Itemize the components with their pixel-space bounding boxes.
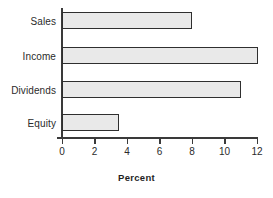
x-axis-title: Percent <box>0 172 273 183</box>
x-tick-label-0: 0 <box>59 146 65 157</box>
category-label-dividends: Dividends <box>11 84 56 95</box>
category-label-equity: Equity <box>28 117 56 128</box>
x-tick-6 <box>159 138 161 144</box>
x-tick-label-6: 6 <box>157 146 163 157</box>
bar-sales <box>62 12 192 29</box>
x-tick-label-12: 12 <box>251 146 262 157</box>
x-tick-4 <box>127 138 129 144</box>
value-axis-line <box>57 137 258 139</box>
x-tick-label-2: 2 <box>92 146 98 157</box>
x-tick-12 <box>257 138 259 144</box>
x-tick-2 <box>94 138 96 144</box>
bar-equity <box>62 114 119 131</box>
category-label-income: Income <box>23 50 56 61</box>
x-tick-label-10: 10 <box>219 146 230 157</box>
category-label-sales: Sales <box>30 15 56 26</box>
x-tick-0 <box>62 138 64 144</box>
x-tick-label-4: 4 <box>124 146 130 157</box>
x-tick-label-8: 8 <box>189 146 195 157</box>
bar-dividends <box>62 81 241 98</box>
plot-area: Sales Income Dividends Equity <box>62 8 257 137</box>
bar-income <box>62 47 258 64</box>
x-tick-10 <box>224 138 226 144</box>
bar-chart: Sales Income Dividends Equity 0 2 4 6 8 … <box>0 0 273 198</box>
x-tick-8 <box>192 138 194 144</box>
